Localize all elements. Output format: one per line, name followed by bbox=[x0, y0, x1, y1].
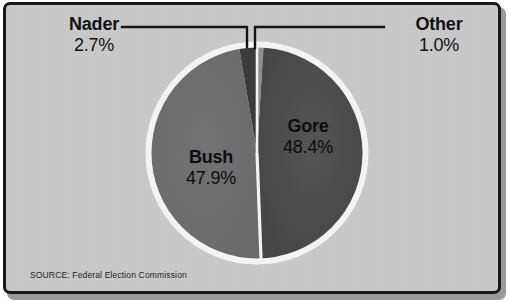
pie-label-gore-value: 48.4% bbox=[255, 138, 361, 157]
pie-label-bush-value: 47.9% bbox=[158, 169, 264, 188]
pie-label-nader-value: 2.7% bbox=[42, 36, 146, 55]
pie-label-other: Other 1.0% bbox=[388, 15, 490, 55]
pie-label-other-name: Other bbox=[388, 15, 490, 34]
pie-label-nader-name: Nader bbox=[42, 15, 146, 34]
source-note: SOURCE: Federal Election Commission bbox=[30, 270, 187, 280]
chart-panel: Nader 2.7% Other 1.0% Gore 48.4% Bush 47… bbox=[3, 2, 501, 294]
pie-label-bush: Bush 47.9% bbox=[158, 148, 264, 188]
pie-label-gore: Gore 48.4% bbox=[255, 117, 361, 157]
pie-label-other-value: 1.0% bbox=[388, 36, 490, 55]
pie-label-bush-name: Bush bbox=[158, 148, 264, 167]
pie-label-gore-name: Gore bbox=[255, 117, 361, 136]
pie-label-nader: Nader 2.7% bbox=[42, 15, 146, 55]
pie-chart-figure: Nader 2.7% Other 1.0% Gore 48.4% Bush 47… bbox=[0, 0, 508, 301]
